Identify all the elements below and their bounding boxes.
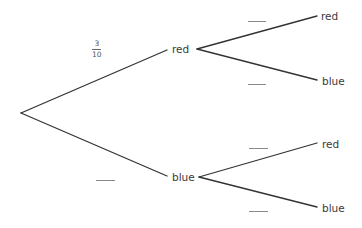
branch-root-to-red [21, 50, 167, 113]
probability-blank-first-blue[interactable] [96, 180, 115, 181]
probability-blank-blue-blue[interactable] [249, 211, 268, 212]
leaf-label-red-red: red [321, 10, 338, 22]
leaf-label-red-blue: blue [322, 75, 345, 87]
probability-blank-red-blue[interactable] [248, 84, 266, 85]
probability-blank-red-red[interactable] [248, 21, 266, 22]
fraction-numerator: 3 [94, 40, 99, 48]
leaf-label-blue-blue: blue [322, 202, 345, 214]
node-label-first-red: red [172, 43, 189, 55]
probability-first-red: 3 10 [92, 40, 102, 59]
leaf-label-blue-red: red [322, 138, 339, 150]
fraction-denominator: 10 [92, 51, 102, 59]
branch-root-to-blue [21, 113, 167, 176]
branch-blue-to-blue [199, 177, 317, 207]
tree-branches [0, 0, 362, 228]
node-label-first-blue: blue [172, 171, 195, 183]
branch-red-to-blue [197, 49, 317, 80]
probability-blank-blue-red[interactable] [249, 148, 268, 149]
